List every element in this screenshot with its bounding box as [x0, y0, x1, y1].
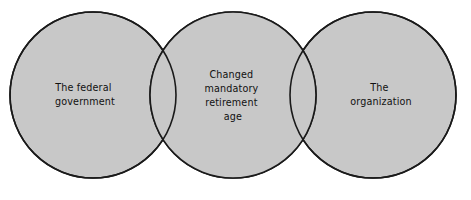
organization-label-line-1: The [369, 82, 388, 93]
changed-mandatory-retirement-age-circle [150, 12, 316, 178]
changed-label-line-1: Changed [209, 69, 253, 80]
changed-label-line-2: mandatory [204, 83, 258, 94]
changed-label-line-4: age [224, 111, 242, 122]
federal-government-label-line-2: government [55, 96, 115, 107]
federal-government-label-line-1: The federal [54, 82, 111, 93]
changed-label-line-3: retirement [205, 97, 257, 108]
venn-diagram-figure: The federal government Changed mandatory… [0, 0, 471, 200]
organization-label-line-2: organization [350, 96, 411, 107]
venn-diagram-canvas: The federal government Changed mandatory… [0, 0, 471, 200]
